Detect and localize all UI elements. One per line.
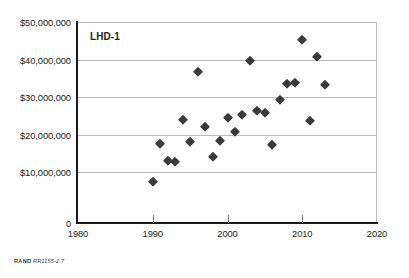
x-axis-tick-label: 1980 bbox=[68, 228, 88, 239]
figure-container: 0$10,000,000$20,000,000$30,000,000$40,00… bbox=[0, 0, 409, 278]
y-axis-tick-label: $50,000,000 bbox=[20, 17, 76, 28]
y-axis-tick-label: $40,000,000 bbox=[20, 54, 76, 65]
x-axis-tick-mark bbox=[302, 215, 303, 223]
y-axis-tick-label: $30,000,000 bbox=[20, 92, 76, 103]
gridline bbox=[78, 135, 377, 136]
series-title-label: LHD-1 bbox=[90, 31, 120, 42]
x-axis-tick-label: 2000 bbox=[217, 228, 237, 239]
footnote-figure-id: RR1155-2.7 bbox=[33, 258, 64, 264]
x-axis-tick-label: 2010 bbox=[292, 228, 312, 239]
footnote-rand-mark: RAND bbox=[14, 258, 31, 264]
gridline bbox=[78, 97, 377, 98]
y-axis-tick-label: $10,000,000 bbox=[20, 167, 76, 178]
x-axis-tick-mark bbox=[153, 215, 154, 223]
y-axis-tick-label: 0 bbox=[66, 218, 76, 229]
figure-footnote: RAND RR1155-2.7 bbox=[14, 258, 64, 264]
y-axis-line bbox=[76, 21, 78, 224]
gridline bbox=[78, 60, 377, 61]
x-axis-tick-mark bbox=[228, 215, 229, 223]
x-axis-tick-label: 1990 bbox=[143, 228, 163, 239]
x-axis-tick-label: 2020 bbox=[367, 228, 387, 239]
gridline bbox=[78, 172, 377, 173]
y-axis-tick-label: $20,000,000 bbox=[20, 129, 76, 140]
